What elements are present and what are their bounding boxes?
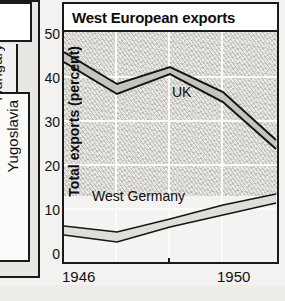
x-tick-1950: 1950 (217, 268, 250, 285)
y-tick-0: 0 (34, 247, 60, 261)
x-tick-1946: 1946 (62, 268, 95, 285)
uk-upper-line (64, 52, 276, 140)
west-european-exports-chart: West European exports 50 40 30 20 10 0 (60, 0, 285, 301)
series-label-west-germany: West Germany (92, 188, 185, 204)
series-label-uk: UK (172, 84, 191, 100)
chart-title: West European exports (64, 9, 235, 26)
y-tick-30: 30 (34, 115, 60, 129)
series-plot-svg (64, 32, 277, 260)
y-axis-tick-labels: 50 40 30 20 10 0 (30, 32, 60, 264)
left-chart-title-box (0, 2, 32, 42)
y-tick-50: 50 (34, 27, 60, 41)
y-tick-40: 40 (34, 71, 60, 85)
plot-area: UK West Germany (62, 32, 279, 264)
left-chart-label-hungary: Hungary (0, 44, 5, 101)
y-tick-20: 20 (34, 159, 60, 173)
left-chart-label-yugoslavia: Yugoslavia (4, 100, 21, 173)
y-axis-title: Total exports (percent) (66, 46, 82, 197)
y-tick-10: 10 (34, 203, 60, 217)
chart-title-box: West European exports (62, 2, 279, 32)
page-bottom-edge (0, 285, 285, 301)
x-tick-mark-mid (168, 258, 170, 263)
